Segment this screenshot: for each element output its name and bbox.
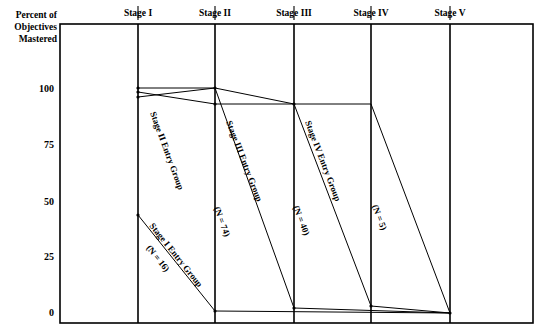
plot-area-border [60,24,533,323]
node-stage-iv-origin [136,86,139,89]
curve-n-stage-iv-entry-group: (N = 5) [370,203,389,231]
y-tick-label-25: 25 [44,251,54,262]
node-stage-ii-peak [213,86,216,89]
node-stage-iii-origin [136,90,139,93]
y-tick-label-50: 50 [44,196,54,207]
y-tick-label-0: 0 [49,307,54,318]
y-axis-title-line-2: Objectives [14,22,57,32]
node-stage-i-floor [213,309,216,312]
stage-mastery-line-chart: Percent of Objectives Mastered Stage I S… [0,0,541,335]
y-tick-label-75: 75 [44,139,54,150]
node-convergence-zero [448,311,451,314]
curve-label-stage-iii-entry-group: Stage III Entry Group [224,119,264,203]
node-stage-ii-origin [136,95,139,98]
node-stage-ii-floor [292,306,295,309]
y-tick-label-100: 100 [39,83,54,94]
node-stage-i-origin [136,213,139,216]
y-axis-title-line-3: Mastered [19,34,58,44]
curve-label-stage-iv-entry-group: Stage IV Entry Group [303,119,343,202]
node-stage-iii-plateau-start [213,102,216,105]
y-axis-title-line-1: Percent of [16,10,58,20]
node-stage-iii-floor [369,304,372,307]
curve-label-stage-ii-entry-group: Stage II Entry Group [148,110,186,191]
node-stage-iv-plateau-start [292,102,295,105]
chart-page: Percent of Objectives Mastered Stage I S… [0,0,541,335]
